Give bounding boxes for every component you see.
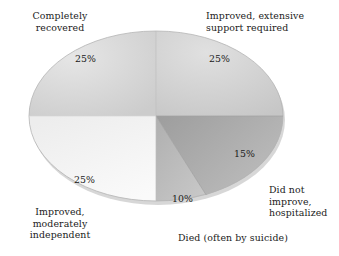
slice-value-completely-recovered: 25% [75,53,96,64]
slice-label-died-by-suicide: Died (often by suicide) [178,232,318,244]
slice-label-improved-moderately-independent: Improved, moderately independent [8,206,112,241]
pie-slice-improved-extensive-support [156,31,283,116]
slice-value-did-not-improve-hospitalized: 15% [234,148,255,159]
slice-label-improved-extensive-support: Improved, extensive support required [206,10,332,33]
pie-slice-improved-moderately-independent [29,116,156,201]
slice-label-completely-recovered: Completely recovered [14,10,106,33]
slice-value-died-by-suicide: 10% [172,193,193,204]
pie-slice-completely-recovered [29,31,156,116]
pie-chart-figure: Completely recovered Improved, extensive… [0,0,339,256]
slice-label-did-not-improve-hospitalized: Did not improve, hospitalized [269,184,339,219]
slice-value-improved-moderately-independent: 25% [74,174,95,185]
slice-value-improved-extensive-support: 25% [209,53,230,64]
